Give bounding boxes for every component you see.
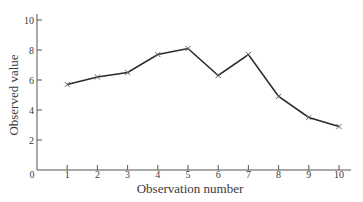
y-tick-label: 4 (29, 105, 34, 116)
x-axis: 12345678910 0 Observation number (30, 165, 352, 196)
y-ticks: 246810 (24, 15, 42, 146)
data-point-x-marker (216, 73, 221, 78)
x-tick-label: 8 (276, 169, 281, 180)
plot-area (65, 46, 342, 129)
data-point-x-marker (276, 94, 281, 99)
y-tick-label: 8 (29, 45, 34, 56)
x-tick-label: 1 (65, 169, 70, 180)
x-tick-label: 4 (155, 169, 160, 180)
y-tick-label: 6 (29, 75, 34, 86)
x-tick-label: 5 (186, 169, 191, 180)
origin-label: 0 (30, 169, 35, 180)
y-axis: 246810 Observed value (6, 14, 42, 170)
x-axis-title: Observation number (137, 181, 244, 196)
x-tick-label: 3 (125, 169, 130, 180)
x-ticks: 12345678910 (65, 165, 344, 180)
x-tick-label: 2 (95, 169, 100, 180)
x-tick-label: 7 (246, 169, 251, 180)
x-tick-label: 6 (216, 169, 221, 180)
data-point-x-marker (246, 52, 251, 57)
y-tick-label: 2 (29, 135, 34, 146)
series-markers (65, 46, 342, 129)
y-axis-title: Observed value (6, 54, 21, 135)
x-tick-label: 10 (334, 169, 344, 180)
line-chart: 246810 Observed value 12345678910 0 Obse… (0, 0, 363, 202)
x-tick-label: 9 (306, 169, 311, 180)
y-tick-label: 10 (24, 15, 34, 26)
series-line (67, 49, 339, 127)
